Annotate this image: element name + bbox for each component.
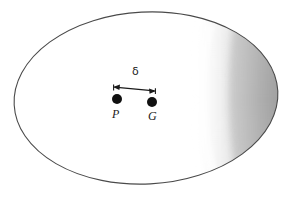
point-p-label: P <box>112 108 119 120</box>
ellipse-diagram <box>0 0 294 198</box>
figure-canvas: δ P G <box>0 0 294 198</box>
point-p-marker <box>112 94 122 104</box>
delta-label: δ <box>132 66 139 77</box>
point-g-marker <box>147 97 157 107</box>
point-g-label: G <box>148 110 157 122</box>
